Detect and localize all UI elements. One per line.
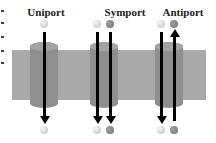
symport-arrow-a-shaft	[96, 32, 99, 116]
uniport-molecule-top	[40, 20, 48, 28]
label-uniport: Uniport	[16, 6, 76, 18]
label-antiport: Antiport	[153, 6, 213, 18]
antiport-molecule-b-top	[170, 20, 178, 28]
symport-molecule-a-bottom	[93, 126, 101, 134]
symport-arrow-b-shaft	[109, 32, 112, 116]
symport-arrow-b-down-icon	[106, 116, 116, 124]
symport-molecule-b-bottom	[106, 126, 114, 134]
uniport-molecule-bottom	[40, 126, 48, 134]
uniport-arrow-shaft	[43, 32, 46, 116]
symport-arrow-a-down-icon	[93, 116, 103, 124]
antiport-arrow-b-shaft	[173, 37, 176, 121]
antiport-arrow-a-shaft	[160, 32, 163, 116]
symport-channel	[90, 42, 118, 108]
label-symport: Symport	[95, 6, 155, 18]
antiport-arrow-a-down-icon	[157, 116, 167, 124]
symport-molecule-b-top	[106, 20, 114, 28]
antiport-molecule-b-bottom	[170, 126, 178, 134]
antiport-arrow-b-up-icon	[170, 29, 180, 37]
antiport-molecule-a-top	[157, 20, 165, 28]
uniport-arrow-down-icon	[40, 116, 50, 124]
symport-molecule-a-top	[93, 20, 101, 28]
antiport-molecule-a-bottom	[157, 126, 165, 134]
